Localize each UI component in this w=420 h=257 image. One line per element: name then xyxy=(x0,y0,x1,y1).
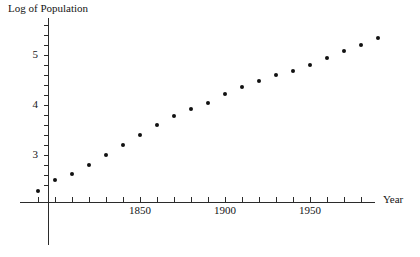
scatter-point xyxy=(223,92,227,96)
scatter-point xyxy=(376,36,380,40)
scatter-point xyxy=(172,114,176,118)
x-tick xyxy=(191,197,192,202)
y-tick xyxy=(44,175,49,176)
scatter-point xyxy=(325,56,329,60)
scatter-point xyxy=(240,85,244,89)
scatter-point xyxy=(359,43,363,47)
scatter-point xyxy=(274,73,278,77)
y-tick-label: 4 xyxy=(22,98,38,111)
y-tick xyxy=(44,135,49,136)
x-tick xyxy=(276,197,277,202)
x-tick xyxy=(72,197,73,202)
x-tick xyxy=(208,197,209,202)
y-tick xyxy=(44,145,49,146)
x-tick xyxy=(259,197,260,202)
scatter-point xyxy=(53,178,57,182)
scatter-point xyxy=(104,153,108,157)
y-tick xyxy=(44,125,49,126)
x-axis-title: Year xyxy=(383,193,403,206)
scatter-point xyxy=(189,107,193,111)
y-tick xyxy=(44,85,49,86)
scatter-point xyxy=(87,163,91,167)
y-tick xyxy=(44,165,49,166)
y-axis-line xyxy=(48,18,49,245)
x-tick xyxy=(174,197,175,202)
y-tick-label: 3 xyxy=(22,148,38,161)
y-tick xyxy=(44,65,49,66)
x-tick xyxy=(225,197,226,202)
x-axis-line xyxy=(20,202,375,203)
x-tick xyxy=(123,197,124,202)
x-tick xyxy=(327,197,328,202)
x-tick xyxy=(157,197,158,202)
scatter-point xyxy=(70,172,74,176)
x-tick xyxy=(89,197,90,202)
x-tick xyxy=(106,197,107,202)
y-tick-label: 5 xyxy=(22,48,38,61)
x-tick xyxy=(242,197,243,202)
x-tick xyxy=(344,197,345,202)
scatter-point xyxy=(308,63,312,67)
y-tick xyxy=(44,105,49,106)
y-tick xyxy=(44,35,49,36)
scatter-point xyxy=(291,69,295,73)
x-tick xyxy=(38,197,39,202)
chart-figure: Log of Population Year 185019001950 345 xyxy=(0,0,420,257)
y-tick xyxy=(44,55,49,56)
y-axis-title: Log of Population xyxy=(8,2,88,15)
scatter-point xyxy=(257,79,261,83)
x-tick-label: 1900 xyxy=(205,204,245,217)
scatter-point xyxy=(121,143,125,147)
x-tick xyxy=(361,197,362,202)
scatter-point xyxy=(342,49,346,53)
y-tick xyxy=(44,95,49,96)
x-tick xyxy=(140,197,141,202)
x-tick-label: 1850 xyxy=(120,204,160,217)
x-tick xyxy=(293,197,294,202)
scatter-point xyxy=(138,133,142,137)
y-tick xyxy=(44,155,49,156)
x-tick-label: 1950 xyxy=(290,204,330,217)
scatter-point xyxy=(206,101,210,105)
y-tick xyxy=(44,25,49,26)
y-tick xyxy=(44,45,49,46)
scatter-point xyxy=(36,189,40,193)
y-tick xyxy=(44,75,49,76)
x-tick xyxy=(310,197,311,202)
scatter-point xyxy=(155,123,159,127)
y-tick xyxy=(44,115,49,116)
x-tick xyxy=(55,197,56,202)
y-tick xyxy=(44,185,49,186)
